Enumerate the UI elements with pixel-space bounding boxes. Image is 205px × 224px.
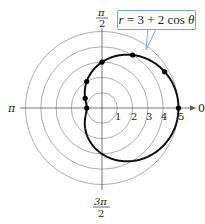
polar-graph: 1 2 3 4 5 0 π π 2 3π 2 [0,0,205,224]
angle-label-three-half-pi-denominator: 2 [98,208,104,219]
data-point [99,60,104,65]
data-point [130,52,135,57]
radial-label-2: 2 [131,111,137,122]
angle-label-half-pi-denominator: 2 [99,18,105,29]
data-point [84,105,89,110]
radial-label-4: 4 [161,111,167,122]
angle-label-three-half-pi-numerator: 3π [94,196,107,207]
equation-callout: r = 3 + 2 cos θ [117,10,196,30]
angle-label-pi: π [7,102,16,115]
angle-label-half-pi-numerator: π [97,7,105,18]
callout-theta: θ [188,12,194,27]
data-point [84,79,89,84]
radial-label-3: 3 [146,111,152,122]
angle-label-zero: 0 [198,102,205,115]
radial-label-5: 5 [178,111,184,122]
data-point [162,69,167,74]
callout-equation-text: = 3 + 2 cos [124,12,189,27]
data-point [83,96,88,101]
data-point [176,105,181,110]
arrow-right-icon [190,106,196,111]
callout-pointer [146,29,156,50]
axes [20,28,196,190]
radial-label-1: 1 [115,111,121,122]
